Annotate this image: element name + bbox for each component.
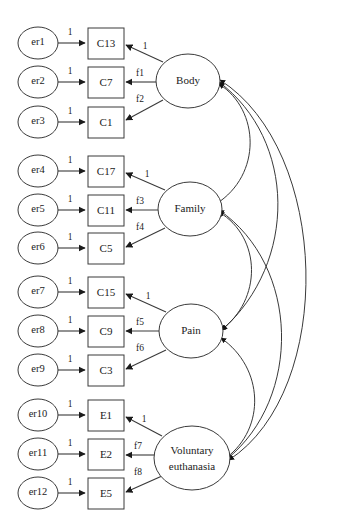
- edge-label-er7-C15: 1: [68, 276, 73, 286]
- error-label-er9: er9: [31, 363, 44, 374]
- cov-body-family: [216, 84, 250, 204]
- error-loading-labels: 1 1 1 1 1 1 1 1 1 1 1 1: [68, 27, 73, 487]
- diagram-canvas: er1 er2 er3 er4 er5 er6 er7 er8 er9 er10…: [0, 0, 351, 526]
- arrow-body-C1: [126, 100, 163, 120]
- factor-label-body: Body: [176, 74, 200, 86]
- cov-pain-euth: [221, 338, 255, 458]
- error-label-er2: er2: [31, 75, 44, 86]
- edge-label-er5-C11: 1: [68, 194, 73, 204]
- cov-family-pain: [219, 212, 252, 330]
- edge-label-family-C17: 1: [145, 169, 150, 179]
- covariance-curves: [216, 80, 306, 460]
- edge-label-er10-E1: 1: [68, 399, 73, 409]
- sem-path-diagram: er1 er2 er3 er4 er5 er6 er7 er8 er9 er10…: [0, 0, 351, 526]
- indicator-label-C7: C7: [100, 76, 113, 88]
- edge-label-pain-C9: f5: [136, 317, 144, 327]
- edge-label-body-C7: f1: [136, 68, 144, 78]
- edge-label-er4-C17: 1: [68, 155, 73, 165]
- indicator-nodes: C13 C7 C1 C17 C11 C5 C15 C9 C3 E1 E2 E5: [88, 28, 124, 509]
- factor-loading-labels: 1 f1 f2 1 f3 f4 1 f5 f6 1 f7 f8: [134, 41, 151, 477]
- factor-nodes: Body Family Pain Voluntary euthanasia: [154, 54, 230, 490]
- indicator-label-C1: C1: [100, 116, 113, 128]
- edge-label-body-C13: 1: [143, 41, 148, 51]
- edge-label-er1-C13: 1: [68, 27, 73, 37]
- error-label-er4: er4: [31, 164, 45, 175]
- indicator-label-C17: C17: [97, 165, 116, 177]
- error-label-er10: er10: [29, 408, 48, 419]
- edge-label-euth-E5: f8: [134, 467, 142, 477]
- edge-label-pain-C3: f6: [136, 343, 144, 353]
- edge-label-er6-C5: 1: [68, 232, 73, 242]
- indicator-label-E5: E5: [100, 487, 113, 499]
- factor-label-family: Family: [174, 202, 206, 214]
- indicator-label-E1: E1: [100, 409, 112, 421]
- error-label-er3: er3: [31, 115, 44, 126]
- indicator-label-C3: C3: [100, 364, 113, 376]
- error-label-er7: er7: [31, 285, 44, 296]
- indicator-label-C9: C9: [100, 325, 113, 337]
- factor-label-euth-line2: euthanasia: [169, 460, 216, 472]
- error-label-er11: er11: [29, 447, 47, 458]
- factor-node-euth: [154, 426, 230, 490]
- error-label-er8: er8: [31, 324, 44, 335]
- factor-label-euth-line1: Voluntary: [170, 444, 214, 456]
- edge-label-er11-E2: 1: [68, 438, 73, 448]
- arrow-family-C5: [126, 228, 165, 247]
- edge-label-er8-C9: 1: [68, 315, 73, 325]
- edge-label-euth-E1: 1: [142, 414, 147, 424]
- edge-label-pain-C15: 1: [146, 291, 151, 301]
- edge-label-er12-E5: 1: [68, 477, 73, 487]
- indicator-label-C11: C11: [97, 204, 115, 216]
- edge-label-family-C11: f3: [136, 196, 144, 206]
- indicator-label-C13: C13: [97, 37, 116, 49]
- error-nodes: er1 er2 er3 er4 er5 er6 er7 er8 er9 er10…: [18, 27, 58, 509]
- indicator-label-C5: C5: [100, 242, 113, 254]
- factor-label-pain: Pain: [181, 324, 201, 336]
- arrow-pain-C3: [126, 350, 166, 369]
- indicator-label-C15: C15: [97, 286, 116, 298]
- edge-label-body-C1: f2: [136, 94, 144, 104]
- error-label-er5: er5: [31, 203, 44, 214]
- factor-loading-arrows: [126, 45, 166, 492]
- edge-label-er3-C1: 1: [68, 106, 73, 116]
- error-label-er6: er6: [31, 241, 44, 252]
- arrow-euth-E5: [126, 476, 162, 492]
- edge-label-euth-E2: f7: [134, 441, 142, 451]
- error-label-er12: er12: [29, 486, 48, 497]
- indicator-label-E2: E2: [100, 448, 112, 460]
- edge-label-er2-C7: 1: [68, 66, 73, 76]
- edge-label-family-C5: f4: [136, 222, 144, 232]
- error-label-er1: er1: [31, 36, 44, 47]
- edge-label-er9-C3: 1: [68, 354, 73, 364]
